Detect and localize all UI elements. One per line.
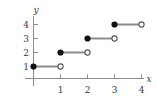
y-tick-label-1: 1 [23, 62, 29, 72]
y-tick-label-2: 2 [23, 48, 29, 58]
open-marker-segment-4 [139, 22, 144, 27]
x-tick-marks [61, 75, 142, 79]
y-tick-label-4: 4 [23, 20, 29, 30]
filled-endpoint-markers [30, 21, 117, 69]
filled-marker-segment-2 [57, 49, 63, 55]
axis-group [25, 16, 144, 86]
x-axis-title: x [146, 74, 151, 84]
open-marker-segment-2 [85, 50, 90, 55]
plot-canvas: 1 2 3 4 1 2 3 4 y x [0, 0, 157, 103]
x-tick-label-2: 2 [85, 85, 91, 95]
step-segment-lines [34, 25, 142, 67]
filled-marker-segment-3 [84, 35, 90, 41]
y-axis-title: y [32, 5, 39, 15]
y-tick-labels: 1 2 3 4 [23, 20, 29, 72]
y-tick-label-3: 3 [23, 34, 29, 44]
x-tick-label-4: 4 [139, 85, 145, 95]
x-tick-label-3: 3 [112, 85, 118, 95]
open-marker-segment-3 [112, 36, 117, 41]
y-tick-marks [34, 25, 39, 67]
filled-marker-segment-4 [111, 21, 117, 27]
open-marker-segment-1 [58, 64, 63, 69]
x-tick-label-1: 1 [58, 85, 64, 95]
step-function-figure: 1 2 3 4 1 2 3 4 y x [0, 0, 157, 103]
filled-marker-segment-1 [30, 63, 36, 69]
open-endpoint-markers [58, 22, 144, 69]
x-tick-labels: 1 2 3 4 [58, 85, 145, 95]
